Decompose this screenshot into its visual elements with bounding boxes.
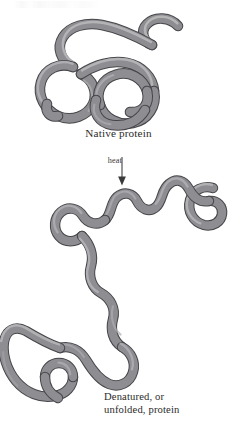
denatured-segment-central-s — [80, 236, 122, 347]
denatured-protein-caption: Denatured, or unfolded, protein — [104, 391, 224, 417]
native-protein-caption: Native protein — [0, 127, 237, 140]
denatured-segment-tail — [45, 377, 58, 398]
native-protein-structure — [38, 17, 178, 126]
heat-label: heat — [78, 156, 122, 166]
denatured-caption-line-2: unfolded, protein — [104, 404, 224, 417]
figure-root: Native protein heat Denatured, or unfold… — [0, 0, 237, 433]
native-strand-f — [96, 73, 147, 105]
protein-illustration — [0, 0, 237, 433]
denatured-caption-line-1: Denatured, or — [104, 391, 224, 404]
denatured-protein-chain — [1, 178, 222, 398]
